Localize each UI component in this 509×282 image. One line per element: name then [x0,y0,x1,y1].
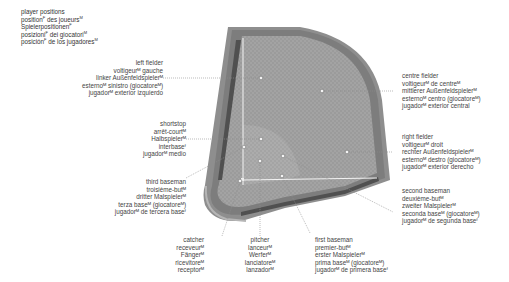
pitcher-fr: lanceurᴹ [240,244,280,252]
pitcher-en: pitcher [240,236,280,244]
first-baseman-en: first baseman [315,236,388,244]
pitcher-de: Werferᴹ [240,251,280,259]
second-baseman-de: zweiter Malspielerᴹ [402,202,479,210]
shortstop-en: shortstop [143,120,186,128]
dot-shortstop [259,137,263,141]
label-third-baseman: third baseman troisième-butᴹ dritter Mal… [115,178,186,216]
second-baseman-fr: deuxième-butᴹ [402,195,479,203]
pitcher-es: lanzadorᴹ [240,266,280,274]
left-fielder-it: esternoᴹ sinistro (giocatoreᴹ) [82,82,163,90]
left-fielder-en: left fielder [82,59,163,67]
third-baseman-it: terza baseᴹ (giocatoreᴹ) [115,201,186,209]
first-baseman-it: prima baseᴹ (giocatoreᴹ) [315,259,388,267]
dot-catcher [238,179,242,183]
dot-right-fielder [345,150,349,154]
centre-fielder-en: centre fielder [402,72,481,80]
first-baseman-fr: premier-butᴹ [315,244,388,252]
catcher-fr: receveurᴹ [175,244,204,252]
shortstop-es: jugadorᴹ medio [143,150,186,158]
left-fielder-fr: voltigeurᴹ gauche [82,67,163,75]
shortstop-fr: arrêt-courtᴹ [143,128,186,136]
label-pitcher: pitcher lanceurᴹ Werferᴹ lanciatoreᴹ lan… [240,236,280,274]
right-fielder-es: jugadorᴹ exterior derecho [402,163,481,171]
dot-first-baseman [280,174,284,178]
label-shortstop: shortstop arrêt-courtᴹ Halbspielerᴹ inte… [143,120,186,158]
dot-centre-fielder [320,89,324,93]
label-catcher: catcher receveurᴹ Fängerᴹ ricevitoreᴹ re… [175,236,204,274]
right-fielder-it: esternoᴹ destro (giocatoreᴹ) [402,156,481,164]
label-second-baseman: second baseman deuxième-butᴹ zweiter Mal… [402,187,479,225]
third-baseman-de: dritter Malspielerᴹ [115,193,186,201]
right-fielder-de: rechter Außenfeldspielerᴹ [402,148,481,156]
catcher-it: ricevitoreᴹ [175,259,204,267]
first-baseman-es: jugadorᴹ de primera baseᶠ [315,266,388,274]
catcher-es: receptorᴹ [175,266,204,274]
pitcher-it: lanciatoreᴹ [240,259,280,267]
dot-third-baseman [242,145,246,149]
second-baseman-it: seconda baseᴹ (giocatoreᴹ) [402,210,479,218]
label-right-fielder: right fielder voltigeurᴹ droit rechter A… [402,133,481,171]
first-baseman-de: erster Malspielerᴹ [315,251,388,259]
catcher-en: catcher [175,236,204,244]
catcher-de: Fängerᴹ [175,251,204,259]
right-fielder-en: right fielder [402,133,481,141]
shortstop-it: interbaseᶠ [143,143,186,151]
right-fielder-fr: voltigeurᴹ droit [402,141,481,149]
shortstop-de: Halbspielerᴹ [143,135,186,143]
centre-fielder-fr: voltigeurᴹ de centreᴹ [402,80,481,88]
third-baseman-fr: troisième-butᴹ [115,186,186,194]
label-centre-fielder: centre fielder voltigeurᴹ de centreᴹ mit… [402,72,481,110]
second-baseman-en: second baseman [402,187,479,195]
dot-second-baseman [281,154,285,158]
left-fielder-de: linker Außenfeldspielerᴹ [82,74,163,82]
centre-fielder-it: esternoᴹ centro (giocatoreᴹ) [402,95,481,103]
dot-left-fielder [259,76,263,80]
third-baseman-en: third baseman [115,178,186,186]
dot-pitcher [258,159,262,163]
label-left-fielder: left fielder voltigeurᴹ gauche linker Au… [82,59,163,97]
left-fielder-es: jugadorᴹ exterior izquierdo [82,89,163,97]
centre-fielder-es: jugadorᴹ exterior central [402,102,481,110]
second-baseman-es: jugadorᴹ de segunda baseᶠ [402,217,479,225]
centre-fielder-de: mittlerer Außenfeldspielerᴹ [402,87,481,95]
third-baseman-es: jugadorᴹ de tercera baseᶠ [115,208,186,216]
label-first-baseman: first baseman premier-butᴹ erster Malspi… [315,236,388,274]
